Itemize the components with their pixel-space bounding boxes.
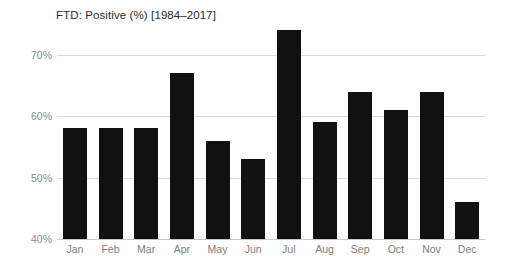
x-tick-label: Mar [126, 243, 166, 255]
x-axis: JanFebMarAprMayJunJulAugSepOctNovDec [57, 243, 485, 263]
y-tick-label: 70% [6, 49, 52, 61]
bar[interactable] [384, 110, 408, 239]
chart-title: FTD: Positive (%) [1984–2017] [56, 9, 216, 21]
bar-chart: FTD: Positive (%) [1984–2017] 40%50%60%7… [0, 0, 505, 274]
bar[interactable] [455, 202, 479, 239]
bar[interactable] [313, 122, 337, 239]
bar[interactable] [63, 128, 87, 239]
x-tick-label: Jul [269, 243, 309, 255]
x-tick-label: Nov [412, 243, 452, 255]
bar[interactable] [206, 141, 230, 239]
y-tick-label: 60% [6, 110, 52, 122]
y-tick-label: 40% [6, 233, 52, 245]
x-tick-label: Aug [305, 243, 345, 255]
x-tick-label: Dec [447, 243, 487, 255]
y-axis: 40%50%60%70% [0, 24, 52, 239]
plot-area [57, 24, 485, 239]
x-tick-label: May [198, 243, 238, 255]
bar[interactable] [348, 92, 372, 239]
bar[interactable] [134, 128, 158, 239]
x-tick-label: Oct [376, 243, 416, 255]
x-tick-label: Jan [55, 243, 95, 255]
bar[interactable] [277, 30, 301, 239]
x-tick-label: Sep [340, 243, 380, 255]
x-tick-label: Feb [91, 243, 131, 255]
gridline-70 [57, 55, 485, 56]
gridline-40 [57, 239, 485, 240]
bar[interactable] [170, 73, 194, 239]
bar[interactable] [99, 128, 123, 239]
bar[interactable] [420, 92, 444, 239]
bar[interactable] [241, 159, 265, 239]
x-tick-label: Apr [162, 243, 202, 255]
x-tick-label: Jun [233, 243, 273, 255]
y-tick-label: 50% [6, 172, 52, 184]
